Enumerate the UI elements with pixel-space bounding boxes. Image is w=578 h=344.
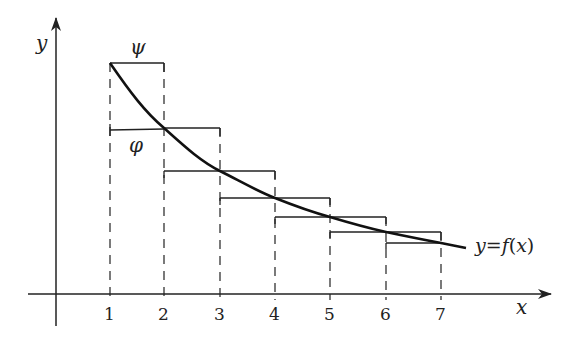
lower-step-function xyxy=(110,124,441,249)
tick-6: 6 xyxy=(380,304,391,324)
tick-3: 3 xyxy=(214,304,225,324)
x-axis-label: x xyxy=(516,295,527,319)
diagram-canvas: y x ψ φ y=f(x) 1 2 3 4 5 6 7 xyxy=(0,0,578,344)
dashed-verticals xyxy=(110,63,441,300)
tick-1: 1 xyxy=(104,304,115,324)
upper-step-edges xyxy=(164,63,441,240)
svg-text:y=f(x): y=f(x) xyxy=(474,234,534,256)
curve-f xyxy=(110,63,466,248)
tick-5: 5 xyxy=(324,304,335,324)
y-axis-label: y xyxy=(35,31,48,55)
psi-label: ψ xyxy=(130,35,146,59)
curve-label: y=f(x) xyxy=(474,234,534,256)
phi-label: φ xyxy=(129,133,143,157)
tick-2: 2 xyxy=(158,304,169,324)
tick-4: 4 xyxy=(269,304,280,324)
x-tick-labels: 1 2 3 4 5 6 7 xyxy=(104,304,446,324)
tick-7: 7 xyxy=(435,304,446,324)
